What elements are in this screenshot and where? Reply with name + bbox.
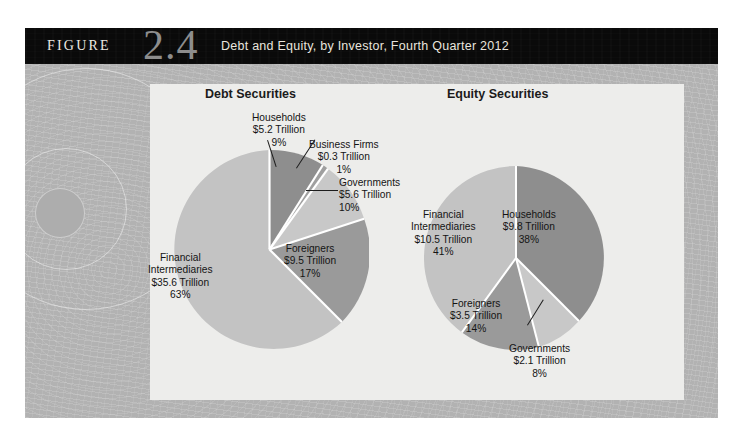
equity-financial-value: $10.5 Trillion <box>414 234 472 245</box>
equity-foreigners-name: Foreigners <box>452 298 501 309</box>
debt-label-financial: Financial Intermediaries $35.6 Trillion … <box>148 252 213 302</box>
debt-foreigners-value: $9.5 Trillion <box>284 255 336 266</box>
equity-governments-name: Governments <box>509 343 570 354</box>
figure-number: 2.4 <box>143 28 199 64</box>
equity-label-governments: Governments $2.1 Trillion 8% <box>509 343 570 380</box>
board-swirl-small <box>35 188 85 238</box>
figure-title: Debt and Equity, by Investor, Fourth Qua… <box>221 39 509 53</box>
debt-financial-value: $35.6 Trillion <box>151 277 209 288</box>
debt-chart-title: Debt Securities <box>205 87 296 101</box>
debt-business-value: $0.3 Trillion <box>318 151 370 162</box>
debt-financial-name-1: Financial <box>160 252 201 263</box>
equity-households-name: Households <box>502 209 556 220</box>
debt-financial-name-2: Intermediaries <box>148 264 213 275</box>
equity-financial-name-2: Intermediaries <box>411 221 476 232</box>
debt-label-governments: Governments $5.6 Trillion 10% <box>339 177 400 214</box>
debt-households-value: $5.2 Trillion <box>253 124 305 135</box>
debt-business-pct: 1% <box>336 164 351 175</box>
debt-households-pct: 9% <box>272 137 287 148</box>
debt-foreigners-pct: 17% <box>300 268 320 279</box>
equity-financial-pct: 41% <box>433 246 453 257</box>
debt-leader-governments <box>306 190 338 191</box>
figure-page: FIGURE 2.4 Debt and Equity, by Investor,… <box>0 0 739 436</box>
equity-foreigners-value: $3.5 Trillion <box>450 310 502 321</box>
figure-header-bar: FIGURE 2.4 Debt and Equity, by Investor,… <box>25 28 718 64</box>
equity-label-households: Households $9.8 Trillion 38% <box>502 209 556 246</box>
debt-governments-name: Governments <box>339 177 400 188</box>
equity-households-pct: 38% <box>519 234 539 245</box>
equity-label-financial: Financial Intermediaries $10.5 Trillion … <box>411 209 476 259</box>
equity-governments-value: $2.1 Trillion <box>514 355 566 366</box>
equity-label-foreigners: Foreigners $3.5 Trillion 14% <box>450 298 502 335</box>
equity-chart-title: Equity Securities <box>447 87 548 101</box>
debt-foreigners-name: Foreigners <box>286 243 335 254</box>
debt-label-foreigners: Foreigners $9.5 Trillion 17% <box>284 243 336 280</box>
figure-word: FIGURE <box>47 38 111 54</box>
debt-governments-pct: 10% <box>339 202 359 213</box>
debt-business-name: Business Firms <box>309 139 379 150</box>
debt-households-name: Households <box>252 112 306 123</box>
debt-financial-pct: 63% <box>170 289 190 300</box>
equity-governments-pct: 8% <box>532 368 547 379</box>
equity-foreigners-pct: 14% <box>466 323 486 334</box>
equity-households-value: $9.8 Trillion <box>503 221 555 232</box>
debt-label-business: Business Firms $0.3 Trillion 1% <box>309 139 379 176</box>
debt-governments-value: $5.6 Trillion <box>339 189 391 200</box>
equity-financial-name-1: Financial <box>423 209 464 220</box>
debt-label-households: Households $5.2 Trillion 9% <box>252 112 306 149</box>
